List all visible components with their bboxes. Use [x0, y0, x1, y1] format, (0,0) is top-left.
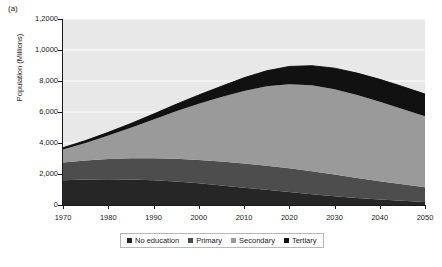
x-axis-tick-label: 2030 [326, 213, 343, 222]
legend-item-secondary[interactable]: Secondary [231, 236, 275, 245]
stacked-area-chart [63, 19, 425, 205]
y-axis-tick-label: 6,000 [2, 107, 58, 116]
x-axis-tick-label: 2050 [417, 213, 434, 222]
legend-item-no-education[interactable]: No education [127, 236, 179, 245]
y-axis-ticks: 02,0004,0006,0008,0001,00001,2000 [0, 0, 58, 210]
legend-swatch-icon [284, 238, 289, 243]
legend-item-label: Tertiary [292, 236, 317, 245]
y-axis-tick-mark [58, 50, 62, 51]
chart-legend: No educationPrimarySecondaryTertiary [120, 233, 324, 248]
plot-area [63, 19, 425, 205]
legend-item-primary[interactable]: Primary [188, 236, 222, 245]
legend-swatch-icon [231, 238, 236, 243]
x-axis-tick-mark [289, 205, 290, 209]
x-axis-tick-label: 1970 [55, 213, 72, 222]
y-axis-tick-label: 1,0000 [2, 45, 58, 54]
x-axis-tick-mark [154, 205, 155, 209]
x-axis-tick-label: 2020 [281, 213, 298, 222]
legend-item-label: No education [135, 236, 179, 245]
x-axis-tick-mark [244, 205, 245, 209]
y-axis-tick-mark [58, 174, 62, 175]
y-axis-line [62, 19, 63, 206]
legend-swatch-icon [127, 238, 132, 243]
x-axis-tick-mark [108, 205, 109, 209]
x-axis-tick-label: 2000 [190, 213, 207, 222]
y-axis-tick-label: 8,000 [2, 76, 58, 85]
x-axis-tick-mark [199, 205, 200, 209]
x-axis-tick-mark [335, 205, 336, 209]
y-axis-tick-mark [58, 112, 62, 113]
y-axis-tick-mark [58, 19, 62, 20]
y-axis-tick-mark [58, 143, 62, 144]
legend-item-tertiary[interactable]: Tertiary [284, 236, 317, 245]
x-axis-tick-label: 2040 [371, 213, 388, 222]
legend-item-label: Primary [196, 236, 222, 245]
x-axis-tick-label: 2010 [236, 213, 253, 222]
y-axis-tick-label: 2,000 [2, 169, 58, 178]
x-axis-tick-mark [425, 205, 426, 209]
x-axis-tick-label: 1990 [145, 213, 162, 222]
y-axis-tick-label: 1,2000 [2, 14, 58, 23]
y-axis-tick-label: 4,000 [2, 138, 58, 147]
legend-swatch-icon [188, 238, 193, 243]
x-axis-tick-mark [380, 205, 381, 209]
x-axis-ticks: 197019801990200020102020203020402050 [0, 205, 442, 229]
x-axis-tick-mark [63, 205, 64, 209]
x-axis-tick-label: 1980 [100, 213, 117, 222]
legend-item-label: Secondary [239, 236, 275, 245]
figure-panel-a: (a) Population (Millions) 02,0004,0006,0… [0, 0, 442, 267]
y-axis-tick-mark [58, 81, 62, 82]
